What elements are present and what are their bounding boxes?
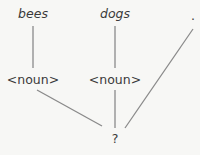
root-node: ? [112, 131, 119, 146]
noun-node-1: <noun> [7, 72, 59, 87]
word-bees: bees [18, 6, 48, 21]
noun-node-2: <noun> [89, 72, 141, 87]
word-dogs: dogs [100, 6, 130, 21]
edge-noun1-root [37, 90, 102, 126]
word-period: . [191, 8, 195, 23]
